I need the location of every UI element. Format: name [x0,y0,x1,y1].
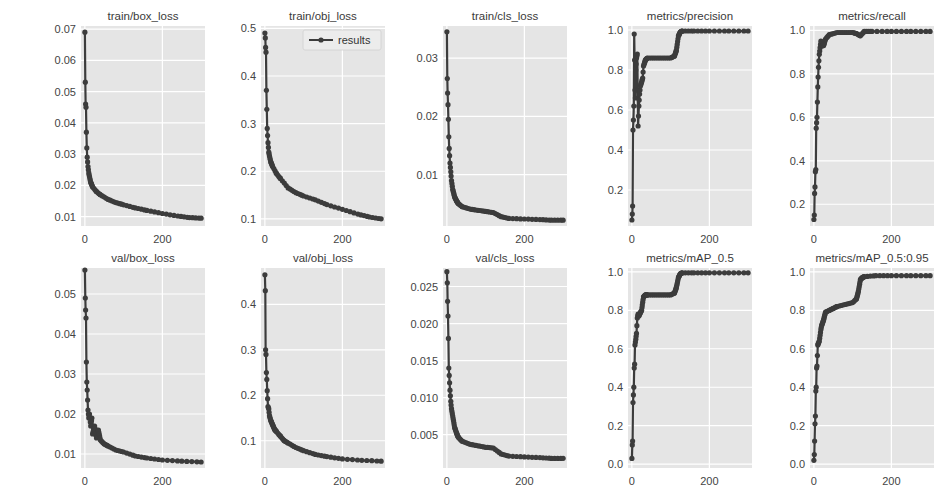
y-tick-label: 0.2 [608,420,623,432]
y-tick-label: 0.6 [608,104,623,116]
y-tick-label: 0.0 [790,458,805,470]
plot-title: val/cls_loss [476,252,535,264]
y-tick-label: 0.05 [55,288,76,300]
y-tick-label: 0.4 [241,70,256,82]
y-tick-label: 0.01 [55,211,76,223]
y-tick-label: 0.03 [417,52,438,64]
y-tick-label: 0.4 [241,298,256,310]
y-tick-label: 0.03 [55,368,76,380]
panel-train-cls-loss: train/cls_loss0.010.020.030200 [395,8,573,254]
plot-title: metrics/recall [838,10,906,22]
y-tick-label: 0.2 [790,420,805,432]
y-tick-label: 1.0 [608,266,623,278]
x-tick-label: 0 [629,475,635,487]
x-tick-label: 200 [153,233,171,245]
plot-title: train/obj_loss [289,10,357,22]
x-tick-label: 200 [333,475,351,487]
y-tick-label: 0.02 [417,110,438,122]
plot-title: val/box_loss [111,252,175,264]
x-tick-label: 200 [882,233,900,245]
axes-area [261,26,385,226]
panel-val-box-loss: val/box_loss0.010.020.030.040.050200 [33,250,211,492]
x-tick-label: 0 [444,475,450,487]
x-tick-label: 0 [82,233,88,245]
y-tick-label: 0.4 [608,381,623,393]
y-tick-label: 0.025 [410,281,438,293]
panel-metrics-map-05: metrics/mAP_0.50.00.20.40.60.81.00200 [580,250,758,492]
y-tick-label: 0.1 [241,435,256,447]
x-tick-label: 0 [262,475,268,487]
x-tick-label: 200 [515,475,533,487]
plot-svg: train/cls_loss0.010.020.030200 [395,8,573,250]
x-tick-label: 0 [811,233,817,245]
y-tick-label: 1.0 [790,24,805,36]
results-figure: train/box_loss0.010.020.030.040.050.060.… [0,0,952,492]
x-tick-label: 200 [882,475,900,487]
plot-title: train/cls_loss [472,10,539,22]
plot-title: metrics/mAP_0.5 [646,252,734,264]
panel-metrics-precision: metrics/precision0.20.40.60.81.00200 [580,8,758,254]
y-tick-label: 0.2 [241,165,256,177]
y-tick-label: 0.015 [410,355,438,367]
axes-area [443,26,567,226]
y-tick-label: 1.0 [790,266,805,278]
y-tick-label: 0.8 [608,64,623,76]
y-tick-label: 0.6 [790,343,805,355]
plot-svg: metrics/mAP_0.50.00.20.40.60.81.00200 [580,250,758,492]
legend: results [303,30,381,50]
x-tick-label: 200 [700,233,718,245]
plot-title: metrics/mAP_0.5:0.95 [815,252,928,264]
plot-title: train/box_loss [108,10,179,22]
y-tick-label: 0.02 [55,408,76,420]
x-tick-label: 0 [629,233,635,245]
x-tick-label: 0 [811,475,817,487]
x-tick-label: 0 [82,475,88,487]
plot-svg: metrics/mAP_0.5:0.950.00.20.40.60.81.002… [762,250,940,492]
y-tick-label: 0.07 [55,23,76,35]
y-tick-label: 0.03 [55,148,76,160]
y-tick-label: 0.2 [608,184,623,196]
y-tick-label: 0.6 [608,343,623,355]
y-tick-label: 0.5 [241,22,256,34]
panel-metrics-recall: metrics/recall0.20.40.60.81.00200 [762,8,940,254]
x-tick-label: 0 [444,233,450,245]
axes-area [810,26,934,226]
axes-area [628,268,752,468]
legend-marker-icon [318,37,323,42]
y-tick-label: 0.4 [790,381,805,393]
y-tick-label: 0.02 [55,179,76,191]
plot-svg: metrics/recall0.20.40.60.81.00200 [762,8,940,250]
y-tick-label: 0.4 [608,144,623,156]
panel-val-obj-loss: val/obj_loss0.10.20.30.40200 [213,250,391,492]
x-tick-label: 0 [262,233,268,245]
plot-title: val/obj_loss [293,252,353,264]
y-tick-label: 0.4 [790,155,805,167]
y-tick-label: 0.05 [55,86,76,98]
y-tick-label: 0.06 [55,54,76,66]
axes-area [810,268,934,468]
y-tick-label: 0.8 [790,68,805,80]
plot-title: metrics/precision [647,10,733,22]
plot-svg: train/box_loss0.010.020.030.040.050.060.… [33,8,211,250]
legend-label: results [338,34,371,46]
panel-train-obj-loss: train/obj_loss0.10.20.30.40.50200results [213,8,391,254]
y-tick-label: 0.010 [410,392,438,404]
y-tick-label: 0.3 [241,344,256,356]
y-tick-label: 0.04 [55,328,76,340]
plot-svg: train/obj_loss0.10.20.30.40.50200results [213,8,391,250]
plot-svg: metrics/precision0.20.40.60.81.00200 [580,8,758,250]
y-tick-label: 0.6 [790,111,805,123]
y-tick-label: 0.005 [410,429,438,441]
y-tick-label: 0.2 [790,198,805,210]
plot-svg: val/box_loss0.010.020.030.040.050200 [33,250,211,492]
x-tick-label: 200 [700,475,718,487]
x-tick-label: 200 [515,233,533,245]
y-tick-label: 0.0 [608,458,623,470]
panel-train-box-loss: train/box_loss0.010.020.030.040.050.060.… [33,8,211,254]
y-tick-label: 1.0 [608,24,623,36]
y-tick-label: 0.04 [55,117,76,129]
y-tick-label: 0.01 [417,169,438,181]
y-tick-label: 0.01 [55,448,76,460]
plot-svg: val/cls_loss0.0050.0100.0150.0200.025020… [395,250,573,492]
x-tick-label: 200 [153,475,171,487]
